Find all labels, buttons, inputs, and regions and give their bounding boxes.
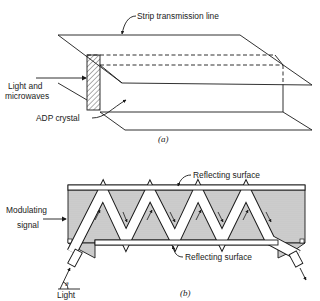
- reflecting-surface-bottom-label: Reflecting surface: [185, 252, 252, 262]
- reflecting-top-leader: [178, 175, 191, 186]
- light-label: Light: [57, 290, 76, 300]
- caption-a: (a): [158, 134, 169, 144]
- output-coupler: [289, 251, 303, 267]
- input-coupler: [68, 249, 83, 267]
- strip-line-label: Strip transmission line: [137, 11, 219, 21]
- angle-theta: θ: [65, 280, 69, 288]
- figure-a: Strip transmission line Light and microw…: [5, 11, 312, 144]
- reflecting-surface-top-label: Reflecting surface: [193, 170, 260, 180]
- light-label-line1: Light and: [8, 81, 43, 91]
- modulating-label-line2: signal: [17, 220, 39, 230]
- crystal-label: ADP crystal: [36, 113, 80, 123]
- output-light-arrow: [300, 268, 306, 280]
- caption-b: (b): [180, 288, 191, 298]
- modulating-label-line1: Modulating: [6, 205, 47, 215]
- diagram-canvas: Strip transmission line Light and microw…: [0, 0, 320, 301]
- strip-line-leader: [122, 16, 136, 34]
- light-label-line2: microwaves: [5, 91, 49, 101]
- figure-b: θ Light Modulating signal Reflecting sur…: [6, 170, 306, 300]
